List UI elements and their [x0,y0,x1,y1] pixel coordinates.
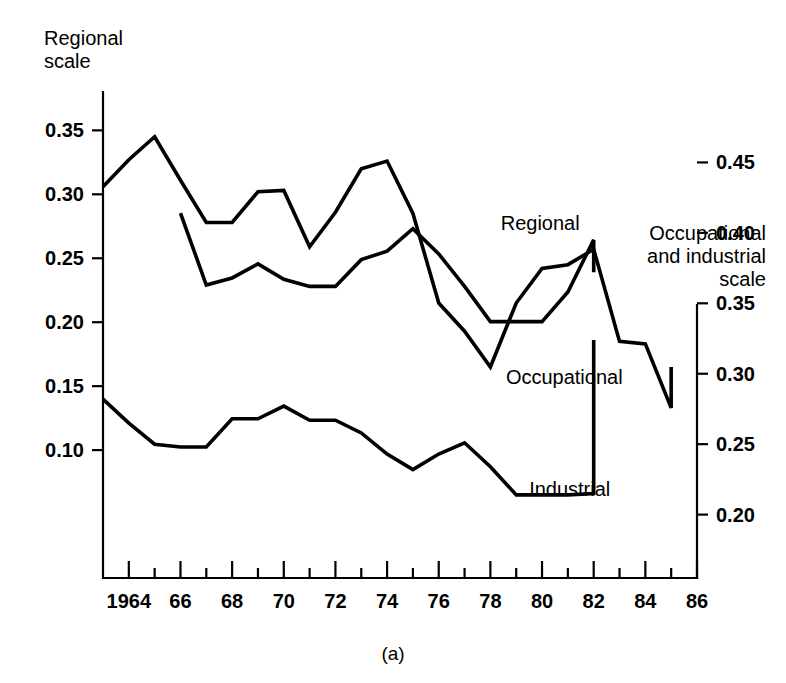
left-tick-label: 0.25 [45,247,84,269]
right-tick-label: 0.40 [716,222,755,244]
x-axis-ticks [129,561,697,578]
x-tick-label: 74 [376,590,399,612]
left-axis-ticks [92,130,103,450]
left-axis-title-line2: scale [44,50,91,72]
left-axis-line [103,92,697,578]
x-tick-label: 82 [583,590,605,612]
chart-figure: Regional scale Occupational and industri… [0,0,786,683]
x-tick-label: 70 [273,590,295,612]
x-tick-label: 86 [686,590,708,612]
right-axis-ticks [697,162,708,514]
right-tick-label: 0.45 [716,151,755,173]
x-tick-label: 80 [531,590,553,612]
right-axis-tick-labels: 0.200.250.300.350.400.45 [716,151,755,525]
series-label-regional: Regional [501,212,580,234]
left-tick-label: 0.35 [45,119,84,141]
series-label-industrial: Industrial [529,478,610,500]
left-tick-label: 0.20 [45,311,84,333]
x-tick-label: 66 [169,590,191,612]
line-chart: Regional scale Occupational and industri… [0,0,786,683]
x-tick-label: 76 [428,590,450,612]
series-line-industrial [103,340,594,495]
left-tick-label: 0.30 [45,183,84,205]
x-tick-label: 1964 [107,590,152,612]
x-tick-label: 68 [221,590,243,612]
x-tick-label: 78 [479,590,501,612]
right-tick-label: 0.25 [716,433,755,455]
left-axis-title-line1: Regional [44,27,123,49]
right-axis-title-line2: and industrial [647,245,766,267]
right-tick-label: 0.30 [716,363,755,385]
right-tick-label: 0.20 [716,504,755,526]
x-tick-label: 72 [324,590,346,612]
left-tick-label: 0.10 [45,439,84,461]
x-axis-tick-labels: 19646668707274767880828486 [107,590,709,612]
series-label-occupational: Occupational [506,366,623,388]
series-paths [103,137,671,495]
left-axis-tick-labels: 0.100.150.200.250.300.35 [45,119,84,461]
right-axis-title-line3: scale [719,268,766,290]
right-tick-label: 0.35 [716,292,755,314]
x-tick-label: 84 [634,590,657,612]
figure-caption: (a) [381,643,404,664]
left-tick-label: 0.15 [45,375,84,397]
series-labels: RegionalOccupationalIndustrial [501,212,623,500]
